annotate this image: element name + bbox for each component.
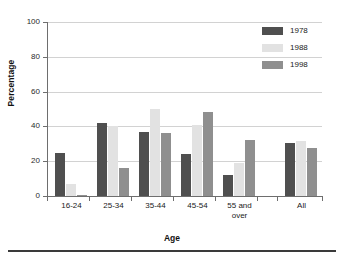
legend-label-1998: 1998 — [290, 61, 308, 69]
legend-item-1988: 1988 — [262, 41, 308, 54]
legend-label-1988: 1988 — [290, 44, 308, 52]
legend-swatch-icon-1988 — [262, 44, 283, 52]
bar-1998-55-and-over — [245, 140, 255, 196]
bar-1988-25-34 — [108, 126, 118, 196]
y-axis-line — [47, 22, 48, 197]
bar-1978-16-24 — [55, 153, 65, 197]
bar-1978-45-54 — [181, 154, 191, 196]
bar-1978-all — [285, 143, 295, 196]
bar-1988-16-24 — [66, 184, 76, 196]
legend: 1978 1988 1998 — [262, 24, 308, 75]
x-axis-title: Age — [0, 233, 344, 243]
y-tick-label-100: 100 — [0, 18, 40, 26]
y-tick-label-40: 40 — [0, 122, 40, 130]
y-tick-label-0: 0 — [0, 192, 40, 200]
bar-1998-35-44 — [161, 133, 171, 196]
y-tick-mark-60 — [43, 92, 48, 93]
bar-group-55-and-over — [223, 22, 256, 196]
y-tick-label-20: 20 — [0, 157, 40, 165]
bar-1998-all — [307, 148, 317, 196]
chart-figure: 020406080100 16-2425-3435-4445-5455 and … — [0, 0, 344, 260]
bar-1998-25-34 — [119, 168, 129, 196]
bar-1988-55-and-over — [234, 163, 244, 196]
legend-swatch-icon-1978 — [262, 27, 283, 35]
y-axis-title: Percentage — [6, 43, 16, 123]
bar-1998-45-54 — [203, 112, 213, 196]
legend-item-1978: 1978 — [262, 24, 308, 37]
y-tick-mark-100 — [43, 22, 48, 23]
bar-1978-35-44 — [139, 132, 149, 196]
bar-group-45-54 — [181, 22, 214, 196]
legend-label-1978: 1978 — [290, 27, 308, 35]
legend-swatch-icon-1998 — [262, 61, 283, 69]
bar-group-16-24 — [55, 22, 88, 196]
bar-1978-25-34 — [97, 123, 107, 196]
legend-item-1998: 1998 — [262, 58, 308, 71]
bar-1988-35-44 — [150, 109, 160, 196]
x-axis-label-5: All — [272, 201, 332, 211]
bar-1988-45-54 — [192, 125, 202, 196]
bar-1988-all — [296, 141, 306, 196]
y-tick-mark-80 — [43, 57, 48, 58]
bar-group-35-44 — [139, 22, 172, 196]
y-tick-mark-40 — [43, 126, 48, 127]
y-tick-mark-20 — [43, 161, 48, 162]
bar-group-25-34 — [97, 22, 130, 196]
footer-divider — [8, 250, 336, 252]
bar-1978-55-and-over — [223, 175, 233, 196]
x-axis-label-4: 55 and over — [210, 201, 270, 220]
